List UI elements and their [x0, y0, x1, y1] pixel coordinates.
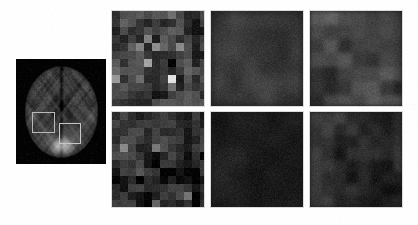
tile-row2-col1 [112, 112, 204, 207]
tile-image-row1-col1 [112, 11, 204, 106]
axial-brain-mri-panel [16, 59, 106, 164]
tile-image-row1-col3 [310, 11, 402, 106]
tile-image-row2-col2 [211, 112, 303, 207]
tile-row1-col1 [112, 11, 204, 106]
tile-row1-col2 [211, 11, 303, 106]
tile-image-row1-col2 [211, 11, 303, 106]
brain-mri-image [16, 59, 106, 164]
tile-image-row2-col1 [112, 112, 204, 207]
tile-row2-col2 [211, 112, 303, 207]
patch-tile-grid [112, 11, 402, 207]
figure-root [0, 0, 418, 225]
tile-image-row2-col3 [310, 112, 402, 207]
tile-row2-col3 [310, 112, 402, 207]
tile-row1-col3 [310, 11, 402, 106]
